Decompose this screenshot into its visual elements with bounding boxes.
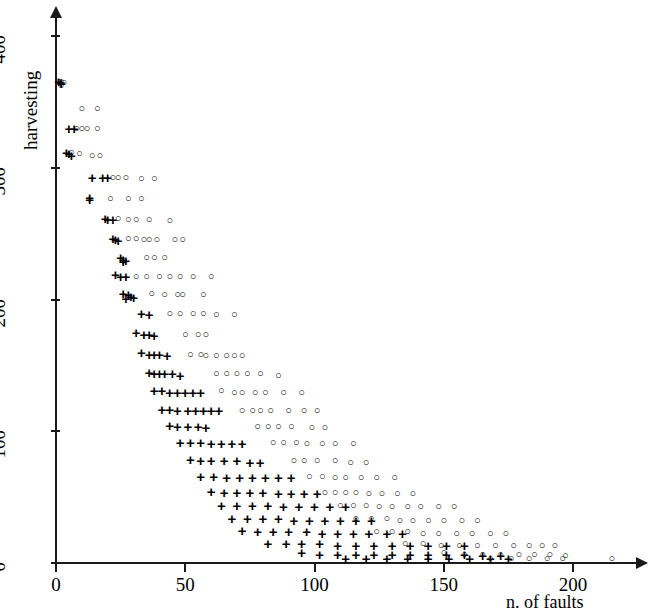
scatter-point-circle: ○ [153, 233, 160, 244]
scatter-point-circle: ○ [94, 103, 101, 114]
scatter-point-circle: ○ [252, 386, 259, 397]
scatter-point-circle: ○ [223, 349, 230, 360]
scatter-point-circle: ○ [138, 173, 145, 184]
scatter-point-plus: + [214, 403, 223, 418]
scatter-point-circle: ○ [322, 422, 329, 433]
scatter-point-circle: ○ [394, 488, 401, 499]
scatter-point-plus: + [173, 403, 182, 418]
scatter-point-circle: ○ [309, 422, 316, 433]
scatter-point-circle: ○ [133, 214, 140, 225]
scatter-point-circle: ○ [267, 405, 274, 416]
scatter-point-circle: ○ [166, 307, 173, 318]
scatter-point-plus: + [382, 550, 391, 565]
scatter-point-circle: ○ [122, 171, 129, 182]
x-tick-label-150: 150 [414, 574, 474, 596]
scatter-point-plus: + [227, 436, 236, 451]
scatter-point-circle: ○ [265, 420, 272, 431]
scatter-point-plus: + [282, 536, 291, 551]
scatter-point-plus: + [121, 268, 130, 283]
scatter-point-plus: + [173, 418, 182, 433]
scatter-point-plus: + [145, 306, 154, 321]
scatter-point-circle: ○ [146, 233, 153, 244]
scatter-point-circle: ○ [203, 349, 210, 360]
scatter-point-circle: ○ [257, 368, 264, 379]
scatter-point-plus: + [486, 550, 495, 565]
scatter-point-plus: + [150, 328, 159, 343]
scatter-point-circle: ○ [363, 500, 370, 511]
scatter-point-circle: ○ [474, 514, 481, 525]
scatter-point-circle: ○ [293, 436, 300, 447]
scatter-point-circle: ○ [177, 307, 184, 318]
scatter-point-circle: ○ [342, 472, 349, 483]
scatter-point-circle: ○ [515, 548, 522, 559]
y-tick-100 [51, 430, 60, 432]
scatter-point-plus: + [114, 233, 123, 248]
scatter-point-circle: ○ [270, 436, 277, 447]
scatter-point-circle: ○ [275, 420, 282, 431]
y-tick-label-300: 300 [0, 167, 9, 196]
scatter-point-circle: ○ [231, 386, 238, 397]
scatter-point-circle: ○ [125, 193, 132, 204]
y-tick-400 [51, 35, 60, 37]
scatter-point-circle: ○ [244, 368, 251, 379]
scatter-point-circle: ○ [203, 328, 210, 339]
scatter-point-circle: ○ [115, 171, 122, 182]
scatter-point-plus: + [196, 434, 205, 449]
scatter-point-circle: ○ [435, 501, 442, 512]
y-axis-label: harvesting [20, 71, 42, 150]
y-tick-label-200: 200 [0, 299, 9, 328]
scatter-point-circle: ○ [166, 215, 173, 226]
scatter-point-circle: ○ [190, 270, 197, 281]
scatter-point-plus: + [176, 434, 185, 449]
scatter-point-circle: ○ [301, 405, 308, 416]
scatter-point-plus: + [465, 550, 474, 565]
scatter-point-plus: + [186, 451, 195, 466]
scatter-point-circle: ○ [322, 486, 329, 497]
scatter-point-circle: ○ [404, 501, 411, 512]
scatter-point-plus: + [121, 291, 130, 306]
scatter-point-plus: + [57, 76, 66, 91]
scatter-point-plus: + [238, 523, 247, 538]
scatter-point-plus: + [424, 550, 433, 565]
scatter-point-circle: ○ [332, 438, 339, 449]
scatter-point-circle: ○ [200, 289, 207, 300]
scatter-point-circle: ○ [353, 486, 360, 497]
scatter-point-circle: ○ [608, 552, 615, 563]
scatter-point-circle: ○ [526, 552, 533, 563]
scatter-point-circle: ○ [262, 386, 269, 397]
scatter-point-circle: ○ [417, 501, 424, 512]
scatter-point-circle: ○ [440, 514, 447, 525]
x-tick-100 [314, 563, 316, 572]
scatter-plot: 0100200300400 050100150200 harvesting n.… [0, 0, 652, 608]
scatter-point-circle: ○ [502, 527, 509, 538]
scatter-point-plus: + [163, 347, 172, 362]
scatter-point-circle: ○ [559, 552, 566, 563]
scatter-point-plus: + [256, 454, 265, 469]
scatter-point-plus: + [274, 470, 283, 485]
y-tick-label-0: 0 [0, 562, 9, 572]
scatter-point-plus: + [217, 436, 226, 451]
scatter-point-circle: ○ [195, 328, 202, 339]
scatter-point-plus: + [238, 436, 247, 451]
scatter-point-plus: + [362, 550, 371, 565]
scatter-point-circle: ○ [239, 386, 246, 397]
x-tick-0 [55, 563, 57, 572]
scatter-point-circle: ○ [544, 552, 551, 563]
scatter-point-circle: ○ [298, 386, 305, 397]
y-axis-line [55, 14, 57, 565]
scatter-point-circle: ○ [373, 472, 380, 483]
scatter-point-circle: ○ [249, 405, 256, 416]
scatter-point-circle: ○ [451, 501, 458, 512]
scatter-point-circle: ○ [409, 514, 416, 525]
scatter-point-circle: ○ [254, 420, 261, 431]
scatter-point-circle: ○ [213, 349, 220, 360]
scatter-point-plus: + [403, 550, 412, 565]
scatter-point-circle: ○ [94, 123, 101, 134]
scatter-point-circle: ○ [275, 369, 282, 380]
scatter-point-circle: ○ [376, 501, 383, 512]
scatter-point-plus: + [315, 546, 324, 561]
scatter-point-circle: ○ [425, 514, 432, 525]
scatter-point-circle: ○ [166, 270, 173, 281]
scatter-point-circle: ○ [303, 438, 310, 449]
scatter-point-circle: ○ [409, 488, 416, 499]
